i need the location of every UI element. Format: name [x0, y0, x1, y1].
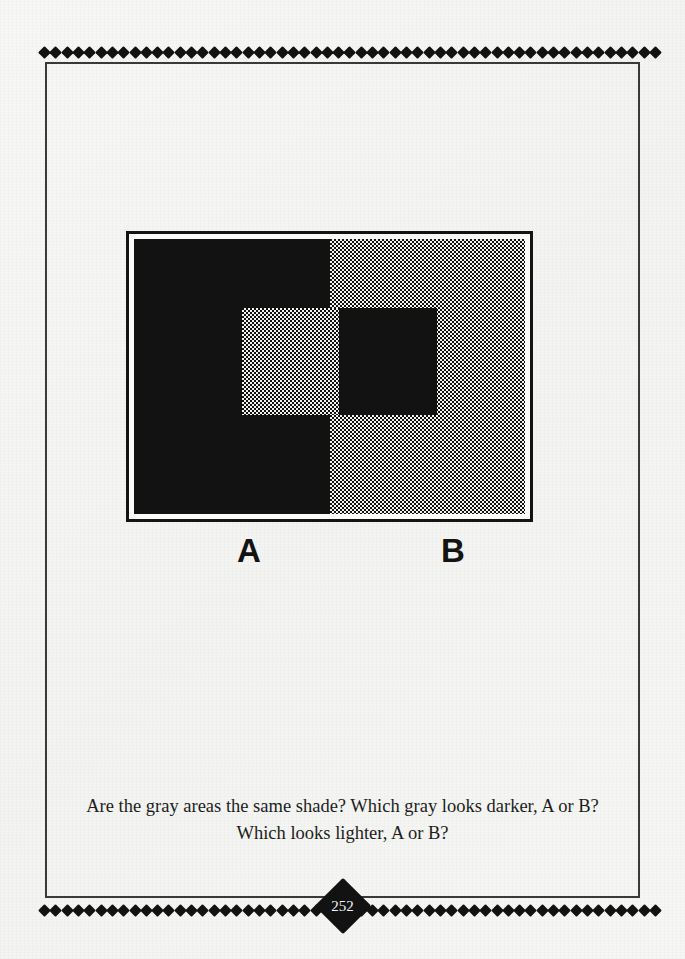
figure-label-b: B — [441, 532, 465, 570]
illustration-canvas — [134, 239, 525, 514]
page-number: 252 — [323, 886, 363, 926]
figure-labels: A B — [126, 532, 533, 572]
page-number-marker: 252 — [323, 886, 363, 926]
diamond-icon — [649, 46, 662, 59]
diamond-icon — [649, 904, 662, 917]
top-diamond-border — [40, 44, 660, 60]
panel-b-inner-black-square — [339, 308, 437, 415]
caption-line-1: Are the gray areas the same shade? Which… — [72, 793, 613, 820]
figure-label-a: A — [237, 532, 261, 570]
figure-caption: Are the gray areas the same shade? Which… — [72, 793, 613, 847]
illustration-frame — [126, 231, 533, 522]
panel-a-inner-gray-square — [242, 308, 340, 415]
caption-line-2: Which looks lighter, A or B? — [72, 820, 613, 847]
